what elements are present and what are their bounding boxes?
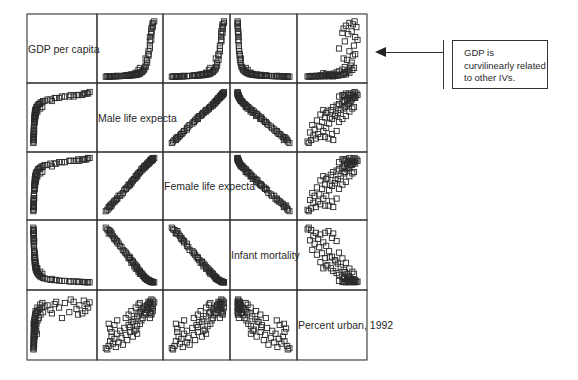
arrow-line xyxy=(385,52,443,53)
annotation-line-1: GDP is xyxy=(464,47,547,60)
annotation-box: GDP is curvilinearly related to other IV… xyxy=(452,40,548,89)
diagonal-label-infant_mort: Infant mortality xyxy=(231,249,301,261)
diagonal-label-male_le: Male life expecta xyxy=(98,112,177,124)
point-gdp-vs-urban-44 xyxy=(351,43,356,48)
diagonal-labels: GDP per capitaMale life expectaFemale li… xyxy=(28,43,393,332)
point-urban-vs-infant_mort-13 xyxy=(265,325,270,330)
diagonal-label-urban: Percent urban, 1992 xyxy=(298,319,393,331)
point-urban-vs-infant_mort-67 xyxy=(263,315,268,320)
point-infant_mort-vs-urban-67 xyxy=(336,250,341,255)
point-female_le-vs-urban-15 xyxy=(314,185,319,190)
point-gdp-vs-urban-45 xyxy=(342,39,347,44)
annotation-line-3: to other IVs. xyxy=(464,72,547,85)
point-urban-vs-female_le-15 xyxy=(193,338,198,343)
point-urban-vs-gdp-44 xyxy=(62,300,67,305)
point-urban-vs-gdp-45 xyxy=(67,310,72,315)
annotation-bracket xyxy=(443,40,444,89)
point-urban-vs-gdp-57 xyxy=(59,315,64,320)
diagonal-label-gdp: GDP per capita xyxy=(28,43,100,55)
point-gdp-vs-urban-59 xyxy=(341,56,346,61)
diagonal-label-female_le: Female life expecta xyxy=(164,180,255,192)
point-urban-vs-gdp-59 xyxy=(49,311,54,316)
point-gdp-vs-urban-57 xyxy=(336,46,341,51)
annotation-line-2: curvilinearly related xyxy=(464,60,547,73)
point-infant_mort-vs-urban-13 xyxy=(327,249,332,254)
